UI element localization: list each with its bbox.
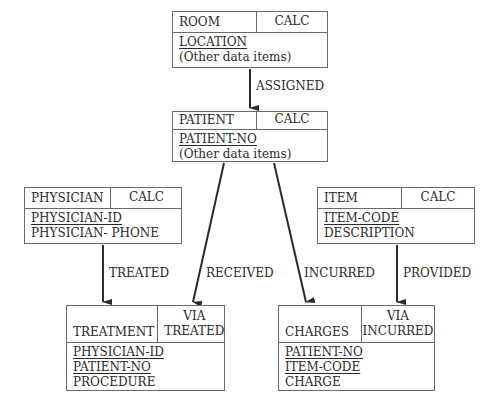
location-mode-line: CALC xyxy=(257,14,327,29)
record-name: PHYSICIAN xyxy=(25,188,111,208)
location-mode-line: CALC xyxy=(402,190,474,205)
key-field: PATIENT-NO xyxy=(285,345,428,360)
data-field: CHARGE xyxy=(285,375,428,390)
key-field: ITEM-CODE xyxy=(324,211,468,226)
record-item: ITEM CALC ITEM-CODE DESCRIPTION xyxy=(317,187,475,244)
data-field: DESCRIPTION xyxy=(324,226,468,241)
data-field: (Other data items) xyxy=(179,147,321,162)
record-name: ITEM xyxy=(318,188,402,208)
record-room: ROOM CALC LOCATION (Other data items) xyxy=(172,11,328,68)
set-label-incurred: INCURRED xyxy=(304,266,375,280)
key-field: ITEM-CODE xyxy=(285,360,428,375)
location-mode-line: TREATED xyxy=(158,324,230,339)
location-mode-line: CALC xyxy=(257,112,327,127)
data-field: PROCEDURE xyxy=(73,375,218,390)
received-arrow xyxy=(193,163,224,302)
record-name: ROOM xyxy=(173,12,257,32)
set-label-assigned: ASSIGNED xyxy=(256,79,324,93)
set-label-received: RECEIVED xyxy=(206,266,274,280)
record-name: CHARGES xyxy=(279,306,362,342)
location-mode: CALC xyxy=(402,188,474,208)
location-mode: CALC xyxy=(257,12,327,32)
set-label-provided: PROVIDED xyxy=(403,266,471,280)
key-field: PATIENT-NO xyxy=(179,132,321,147)
location-mode: CALC xyxy=(257,112,327,129)
set-label-treated: TREATED xyxy=(109,266,169,280)
location-mode: VIA INCURRED xyxy=(362,306,434,342)
record-name: PATIENT xyxy=(173,112,257,129)
record-patient: PATIENT CALC PATIENT-NO (Other data item… xyxy=(172,111,328,162)
data-field: (Other data items) xyxy=(179,50,321,65)
incurred-arrow xyxy=(274,163,306,302)
location-mode-line: CALC xyxy=(111,190,183,205)
key-field: PHYSICIAN-ID xyxy=(31,211,175,226)
data-field: PHYSICIAN- PHONE xyxy=(31,226,175,241)
record-charges: CHARGES VIA INCURRED PATIENT-NO ITEM-COD… xyxy=(278,305,435,391)
record-name: TREATMENT xyxy=(67,306,158,342)
key-field: PATIENT-NO xyxy=(73,360,218,375)
record-physician: PHYSICIAN CALC PHYSICIAN-ID PHYSICIAN- P… xyxy=(24,187,182,244)
location-mode: VIA TREATED xyxy=(158,306,230,342)
location-mode: CALC xyxy=(111,188,183,208)
key-field: LOCATION xyxy=(179,35,321,50)
location-mode-line: VIA xyxy=(362,309,434,324)
record-treatment: TREATMENT VIA TREATED PHYSICIAN-ID PATIE… xyxy=(66,305,225,391)
key-field: PHYSICIAN-ID xyxy=(73,345,218,360)
location-mode-line: VIA xyxy=(158,309,230,324)
location-mode-line: INCURRED xyxy=(362,324,434,339)
